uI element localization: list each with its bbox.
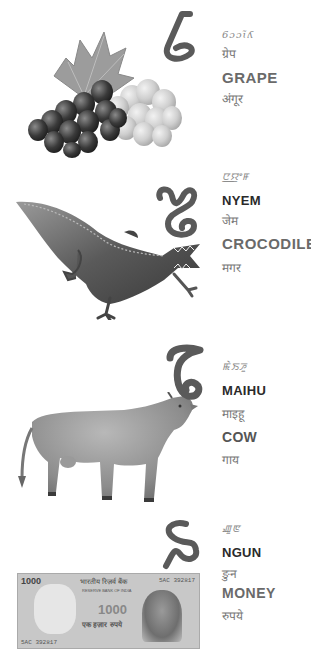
meitei-mayek-word: ꯉꯨꯟ — [222, 524, 241, 534]
banknote-denomination-center: 1000 — [98, 602, 127, 617]
english-word: COW — [222, 430, 257, 444]
mai-letter-icon — [156, 344, 208, 404]
rupee-banknote-image: 1000 भारतीय रिज़र्व बैंक 5AC 392817 RESE… — [17, 573, 200, 649]
meitei-mayek-word: 6ɔɔɩ̃ʎ — [222, 30, 254, 40]
hindi-transliteration: ग्रेप — [222, 48, 236, 60]
banknote-watermark-area — [34, 584, 76, 634]
ngou-letter-icon — [152, 516, 204, 576]
hindi-transliteration: ङुन — [222, 568, 237, 580]
meitei-romanized-word: MAIHU — [222, 384, 266, 397]
hindi-word: गाय — [222, 454, 239, 466]
banknote-bank-name-english: RESERVE BANK OF INDIA — [82, 588, 132, 593]
english-word: GRAPE — [222, 70, 278, 85]
banknote-denomination-corner: 1000 — [21, 576, 41, 586]
hindi-word: रुपये — [222, 610, 243, 622]
meitei-romanized-word: NYEM — [222, 194, 261, 207]
hindi-transliteration: माइहू — [222, 408, 244, 420]
hindi-word: मगर — [222, 262, 241, 274]
entry-cow: ꯃꯥꯏꯍꯨ MAIHU माइहू COW गाय — [0, 340, 311, 520]
meitei-mayek-word: ꯅ꯭ꯌꯦꯝ — [222, 172, 249, 182]
gok-letter-icon — [150, 6, 202, 66]
banknote-serial: 5AC 392817 — [159, 577, 195, 584]
english-word: MONEY — [222, 586, 276, 600]
entry-money: 1000 भारतीय रिज़र्व बैंक 5AC 392817 RESE… — [0, 510, 311, 658]
banknote-bank-name: भारतीय रिज़र्व बैंक — [80, 577, 127, 586]
meitei-romanized-word: NGUN — [222, 546, 261, 559]
banknote-portrait — [142, 590, 182, 642]
banknote-serial-bottom: 5AC 392817 — [21, 639, 57, 646]
nyem-letter-icon — [150, 184, 202, 244]
cow-image — [14, 392, 198, 512]
meitei-mayek-word: ꯃꯥꯏꯍꯨ — [222, 362, 247, 372]
banknote-amount-words: एक हज़ार रुपये — [82, 620, 122, 629]
hindi-word: अंगूर — [222, 93, 243, 105]
entry-grape: 6ɔɔɩ̃ʎ ग्रेप GRAPE अंगूर — [0, 0, 311, 170]
entry-crocodile: ꯅ꯭ꯌꯦꯝ NYEM जेम CROCODILE मगर — [0, 170, 311, 340]
english-word: CROCODILE — [222, 236, 311, 251]
hindi-transliteration: जेम — [222, 215, 238, 227]
